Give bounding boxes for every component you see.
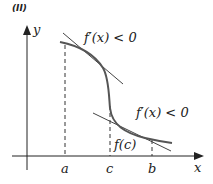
x-axis-label: x <box>194 160 201 175</box>
panel-label: (II) <box>12 3 27 13</box>
y-axis-arrow-icon <box>23 25 31 35</box>
annotation-top: f′(x) < 0 <box>84 30 137 45</box>
tick-label-b: b <box>148 161 156 176</box>
tick-label-a: a <box>61 161 69 176</box>
x-axis-arrow-icon <box>194 152 204 160</box>
tick-label-c: c <box>106 161 113 176</box>
function-curve <box>60 42 172 143</box>
graph <box>0 0 213 184</box>
y-axis-label: y <box>33 22 40 37</box>
annotation-point: f(c) <box>114 137 136 152</box>
diagram: (II) y x a c b f′(x) < 0 f′(x) < 0 f(c) <box>0 0 213 184</box>
annotation-bottom: f′(x) < 0 <box>136 105 189 120</box>
